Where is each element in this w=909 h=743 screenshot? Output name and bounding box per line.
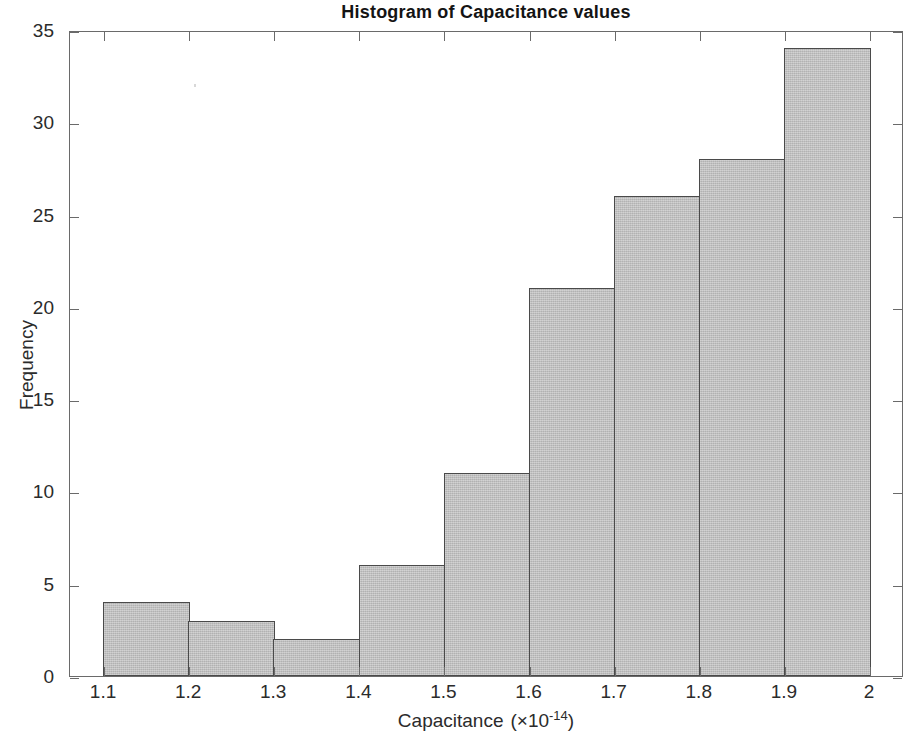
x-axis-tick-label: 1.9	[771, 681, 797, 703]
histogram-bar	[614, 196, 701, 676]
x-axis-tick-mark-top	[189, 32, 190, 41]
x-axis-tick-mark-top	[870, 32, 871, 41]
histogram-bar	[273, 639, 360, 676]
x-axis-tick-label: 1.4	[345, 681, 371, 703]
histogram-bar	[444, 473, 531, 676]
x-axis-tick-mark-top	[785, 32, 786, 41]
x-axis-tick-mark-top	[615, 32, 616, 41]
y-axis-tick-mark	[70, 586, 79, 587]
plot-area	[70, 32, 902, 676]
y-axis-tick-mark-right	[893, 401, 902, 402]
histogram-bar	[699, 159, 786, 676]
x-axis-tick-mark	[785, 667, 786, 676]
y-axis-tick-mark-right	[893, 217, 902, 218]
histogram-bar	[188, 621, 275, 676]
x-axis-tick-mark-top	[359, 32, 360, 41]
x-axis-tick-mark	[444, 667, 445, 676]
y-axis-title: Frequency	[16, 235, 38, 495]
y-axis-tick-label: 30	[33, 112, 54, 134]
y-axis-tick-mark-right	[893, 493, 902, 494]
x-axis-tick-mark	[530, 667, 531, 676]
scan-artifact-speck	[194, 84, 196, 87]
histogram-bar	[529, 288, 616, 676]
x-axis-title-main: Capacitance	[398, 710, 504, 731]
y-axis-tick-mark	[70, 32, 79, 33]
y-axis-tick-mark-right	[893, 309, 902, 310]
x-axis-unit-exponent: -14	[549, 708, 568, 723]
x-axis-tick-mark-top	[700, 32, 701, 41]
x-axis-tick-mark-top	[104, 32, 105, 41]
x-axis-title: Capacitance(×10-14)	[69, 708, 903, 732]
x-axis-tick-mark	[700, 667, 701, 676]
x-axis-tick-mark	[615, 667, 616, 676]
x-axis-tick-label: 1.7	[600, 681, 626, 703]
x-axis-tick-mark	[274, 667, 275, 676]
x-axis-tick-mark-top	[274, 32, 275, 41]
x-axis-unit-suffix: )	[568, 710, 574, 731]
y-axis-tick-label: 35	[33, 20, 54, 42]
x-axis-tick-label: 1.2	[175, 681, 201, 703]
x-axis-tick-label: 1.8	[686, 681, 712, 703]
x-axis-tick-label: 1.6	[515, 681, 541, 703]
y-axis-tick-mark-right	[893, 124, 902, 125]
x-axis-tick-mark	[104, 667, 105, 676]
plot-box	[69, 31, 903, 677]
y-axis-tick-mark	[70, 309, 79, 310]
chart-title: Histogram of Capacitance values	[69, 2, 903, 23]
x-axis-tick-label: 1.5	[430, 681, 456, 703]
x-axis-tick-labels: 1.11.21.31.41.51.61.71.81.92	[0, 678, 909, 708]
x-axis-tick-mark-top	[530, 32, 531, 41]
y-axis-tick-mark	[70, 401, 79, 402]
x-axis-tick-label: 1.3	[260, 681, 286, 703]
y-axis-tick-mark-right	[893, 586, 902, 587]
x-axis-tick-mark	[359, 667, 360, 676]
figure-canvas: Histogram of Capacitance values 05101520…	[0, 0, 909, 743]
y-axis-tick-mark	[70, 493, 79, 494]
x-axis-tick-label: 2	[864, 681, 875, 703]
x-axis-tick-mark	[189, 667, 190, 676]
x-axis-unit-prefix: (×10	[510, 710, 549, 731]
x-axis-tick-mark	[870, 667, 871, 676]
histogram-bar	[103, 602, 190, 676]
y-axis-tick-mark-right	[893, 32, 902, 33]
y-axis-tick-mark	[70, 124, 79, 125]
x-axis-tick-mark-top	[444, 32, 445, 41]
y-axis-tick-mark	[70, 217, 79, 218]
histogram-bar	[784, 48, 871, 676]
x-axis-tick-label: 1.1	[90, 681, 116, 703]
y-axis-tick-label: 5	[43, 574, 54, 596]
y-axis-tick-label: 25	[33, 205, 54, 227]
histogram-bar	[359, 565, 446, 676]
